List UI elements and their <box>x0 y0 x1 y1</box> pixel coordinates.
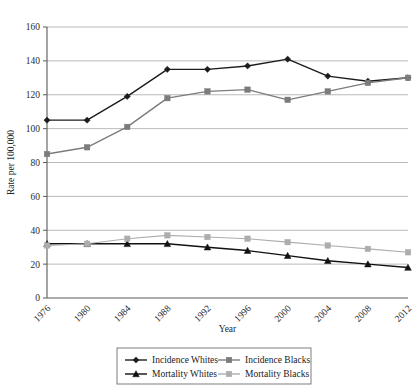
data-point-marker <box>285 239 291 245</box>
data-point-marker <box>124 236 130 242</box>
x-tick-label: 2012 <box>393 303 414 324</box>
data-point-marker <box>165 95 171 101</box>
data-point-marker <box>44 151 50 157</box>
x-tick-label: 1980 <box>72 303 93 324</box>
series-incidence-blacks <box>44 75 411 157</box>
data-point-marker <box>325 89 331 95</box>
series-mortality-whites <box>44 241 412 271</box>
x-tick-label: 1988 <box>152 303 173 324</box>
data-point-marker <box>325 73 331 79</box>
series-line <box>47 78 408 154</box>
y-tick-label: 140 <box>26 56 41 66</box>
y-tick-label: 80 <box>31 158 41 168</box>
data-point-marker <box>226 357 232 363</box>
legend-label: Mortality Whites <box>152 369 217 379</box>
x-tick-label: 1976 <box>32 303 53 324</box>
data-point-marker <box>205 234 211 240</box>
data-point-marker <box>165 233 171 239</box>
data-point-marker <box>245 236 251 242</box>
x-tick-label: 1996 <box>232 303 253 324</box>
y-tick-label: 160 <box>26 22 41 32</box>
legend-label: Incidence Whites <box>152 355 218 365</box>
data-point-marker <box>226 371 232 377</box>
y-tick-label: 60 <box>31 192 41 202</box>
x-tick-label: 2004 <box>313 303 334 324</box>
data-point-marker <box>325 243 331 249</box>
series-incidence-whites <box>44 56 411 123</box>
data-point-marker <box>204 66 210 72</box>
data-point-marker <box>244 63 250 69</box>
data-point-marker <box>365 80 371 86</box>
x-tick-label: 1984 <box>112 303 133 324</box>
data-point-marker <box>245 87 251 93</box>
series-line <box>47 59 408 120</box>
data-point-marker <box>124 124 130 130</box>
data-point-marker <box>205 89 211 95</box>
data-point-marker <box>405 75 411 81</box>
legend-label: Mortality Blacks <box>245 369 309 379</box>
x-tick-label: 2000 <box>273 303 294 324</box>
data-point-marker <box>365 246 371 252</box>
data-point-marker <box>44 243 50 249</box>
data-point-marker <box>84 241 90 247</box>
line-chart: 020406080100120140160Rate per 100,000197… <box>0 0 416 390</box>
data-point-marker <box>285 97 291 103</box>
y-axis-title: Rate per 100,000 <box>6 130 16 195</box>
y-tick-label: 120 <box>26 90 41 100</box>
y-tick-label: 40 <box>31 226 41 236</box>
data-point-marker <box>84 144 90 150</box>
y-tick-label: 0 <box>35 293 40 303</box>
legend-label: Incidence Blacks <box>245 355 310 365</box>
chart-legend: Incidence WhitesIncidence BlacksMortalit… <box>117 348 311 384</box>
data-point-marker <box>84 117 90 123</box>
y-tick-label: 100 <box>26 124 41 134</box>
data-point-marker <box>44 117 50 123</box>
x-tick-label: 2008 <box>353 303 374 324</box>
chart-container: 020406080100120140160Rate per 100,000197… <box>0 0 416 390</box>
y-tick-label: 20 <box>31 260 41 270</box>
x-tick-label: 1992 <box>192 303 213 324</box>
data-point-marker <box>285 56 291 62</box>
data-point-marker <box>405 249 411 255</box>
x-axis-title: Year <box>219 324 237 334</box>
